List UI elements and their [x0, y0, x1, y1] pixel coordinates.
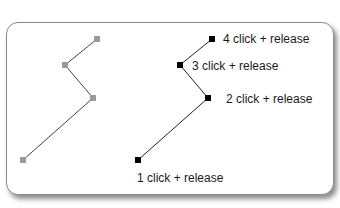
- point-handle-4[interactable]: [209, 36, 215, 42]
- point-handle-1[interactable]: [135, 157, 141, 163]
- step-4-label: 4 click + release: [223, 32, 310, 46]
- path-diagram: 1 click + release 2 click + release 3 cl…: [0, 0, 340, 208]
- step-3-label: 3 click + release: [192, 59, 279, 73]
- active-path: [135, 36, 215, 163]
- point-handle-2[interactable]: [205, 95, 211, 101]
- ghost-point-handle: [62, 62, 68, 68]
- ghost-path: [20, 36, 100, 163]
- ghost-point-handle: [94, 36, 100, 42]
- step-2-label: 2 click + release: [226, 92, 313, 106]
- step-1-label: 1 click + release: [137, 171, 224, 185]
- ghost-point-handle: [20, 157, 26, 163]
- point-handle-3[interactable]: [177, 62, 183, 68]
- ghost-point-handle: [90, 95, 96, 101]
